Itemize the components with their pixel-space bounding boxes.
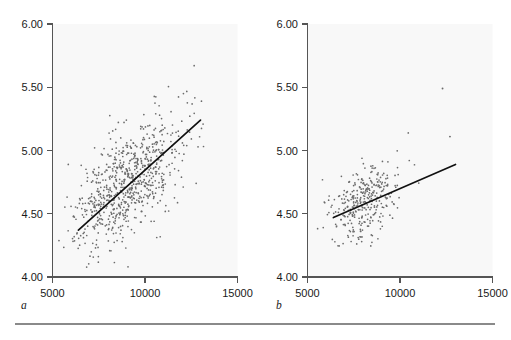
panel-b-xtick-2: 15000 (477, 287, 508, 299)
panel-b-xtick-0: 5000 (295, 287, 319, 299)
scatter-panel-b: 6.00 5.50 5.00 4.50 4.00 5000 10000 1500… (255, 0, 510, 320)
panel-b-ytick-3: 4.50 (277, 208, 298, 220)
panel-b-x-ticks (308, 277, 493, 283)
panel-b-xtick-1: 10000 (385, 287, 416, 299)
footer-rule-svg (0, 318, 511, 340)
panel-b-y-ticks (302, 24, 308, 277)
panel-a-ytick-1: 5.50 (22, 81, 43, 93)
panel-a-xtick-2: 15000 (222, 287, 253, 299)
panel-b-letter: b (276, 299, 282, 311)
panel-a-ytick-0: 6.00 (22, 18, 43, 30)
panel-b-ytick-1: 5.50 (277, 81, 298, 93)
panel-a-y-ticks (47, 24, 53, 277)
figure-container: 6.00 5.50 5.00 4.50 4.00 5000 10000 1500… (0, 0, 511, 340)
panel-a-ytick-2: 5.00 (22, 145, 43, 157)
panel-a-xtick-1: 10000 (130, 287, 161, 299)
scatter-panel-a: 6.00 5.50 5.00 4.50 4.00 5000 10000 1500… (0, 0, 255, 320)
panel-a-x-ticks (53, 277, 238, 283)
panel-b-plot-area (308, 24, 493, 277)
panel-b-ytick-2: 5.00 (277, 145, 298, 157)
panel-a-letter: a (21, 299, 27, 311)
panel-a-ytick-3: 4.50 (22, 208, 43, 220)
panel-a-svg: 6.00 5.50 5.00 4.50 4.00 5000 10000 1500… (0, 0, 255, 320)
panel-a-plot-area (53, 24, 238, 277)
panel-b-ytick-4: 4.00 (277, 271, 298, 283)
panel-a-xtick-0: 5000 (40, 287, 64, 299)
panel-b-svg: 6.00 5.50 5.00 4.50 4.00 5000 10000 1500… (255, 0, 510, 320)
panel-a-ytick-4: 4.00 (22, 271, 43, 283)
panel-b-ytick-0: 6.00 (277, 18, 298, 30)
